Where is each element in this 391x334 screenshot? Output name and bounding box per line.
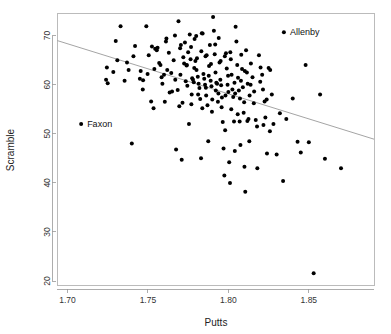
data-point xyxy=(261,123,265,127)
data-point xyxy=(201,32,205,36)
y-tick-label: 60 xyxy=(42,80,52,90)
data-point xyxy=(206,139,210,143)
data-point xyxy=(296,140,300,144)
data-point xyxy=(225,66,229,70)
data-point xyxy=(207,74,211,78)
point-label-faxon: Faxon xyxy=(87,119,112,129)
data-point xyxy=(184,79,188,83)
data-point xyxy=(213,42,217,46)
data-point xyxy=(106,81,110,85)
data-point xyxy=(249,62,253,66)
data-point xyxy=(223,93,227,97)
data-point xyxy=(162,73,166,77)
data-point xyxy=(228,50,232,54)
data-point xyxy=(223,128,227,132)
data-point xyxy=(214,70,218,74)
data-point xyxy=(174,147,178,151)
data-point xyxy=(275,152,279,156)
data-point xyxy=(252,90,256,94)
data-point xyxy=(231,95,235,99)
x-tick-label: 1.75 xyxy=(140,295,157,305)
data-point xyxy=(238,120,242,124)
data-point xyxy=(226,83,230,87)
data-point xyxy=(186,50,190,54)
data-point xyxy=(236,76,240,80)
data-point xyxy=(228,181,232,185)
data-point xyxy=(248,93,252,97)
data-point xyxy=(235,63,239,67)
data-point xyxy=(229,107,233,111)
data-point xyxy=(114,39,118,43)
data-point xyxy=(173,78,177,82)
data-point xyxy=(196,75,200,79)
data-point xyxy=(192,80,196,84)
data-point xyxy=(242,111,246,115)
data-point xyxy=(312,271,316,275)
data-point xyxy=(227,160,231,164)
data-point xyxy=(238,143,242,147)
data-point xyxy=(180,158,184,162)
data-point xyxy=(304,63,308,67)
data-point xyxy=(156,46,160,50)
plot-canvas: 1.701.751.801.85 203040506070 FaxonAllen… xyxy=(0,0,391,334)
data-point xyxy=(164,39,168,43)
data-point xyxy=(131,54,135,58)
data-point xyxy=(200,106,204,110)
data-point xyxy=(197,82,201,86)
data-point xyxy=(242,100,246,104)
data-point xyxy=(177,104,181,108)
data-point xyxy=(278,111,282,115)
data-point xyxy=(271,122,275,126)
data-point xyxy=(104,78,108,82)
data-point xyxy=(270,93,274,97)
data-point xyxy=(170,90,174,94)
data-point xyxy=(220,95,224,99)
data-point xyxy=(169,71,173,75)
data-point xyxy=(243,69,247,73)
data-point xyxy=(194,34,198,38)
data-point xyxy=(205,103,209,107)
data-point xyxy=(178,73,182,77)
data-point xyxy=(268,68,272,72)
data-point xyxy=(245,119,249,123)
data-point xyxy=(179,43,183,47)
data-point xyxy=(210,110,214,114)
data-point xyxy=(232,120,236,124)
data-point xyxy=(257,53,261,57)
data-point xyxy=(183,40,187,44)
data-point xyxy=(260,73,264,77)
data-point xyxy=(160,82,164,86)
y-tick-label: 50 xyxy=(42,129,52,139)
data-point xyxy=(167,51,171,55)
data-point xyxy=(211,15,215,19)
data-point xyxy=(149,99,153,103)
data-point xyxy=(244,48,248,52)
data-point xyxy=(204,86,208,90)
data-point xyxy=(209,84,213,88)
y-axis: 203040506070 xyxy=(42,31,56,286)
data-point xyxy=(299,150,303,154)
data-point xyxy=(230,88,234,92)
data-point xyxy=(268,129,272,133)
data-point xyxy=(247,139,251,143)
data-point xyxy=(226,74,230,78)
data-point xyxy=(318,93,322,97)
data-point xyxy=(217,36,221,40)
data-point xyxy=(204,54,208,58)
data-point xyxy=(339,166,343,170)
data-point xyxy=(230,73,234,77)
data-point xyxy=(189,45,193,49)
x-axis-title: Putts xyxy=(205,317,228,328)
data-point xyxy=(265,151,269,155)
x-tick-label: 1.80 xyxy=(220,295,237,305)
data-point xyxy=(239,53,243,57)
data-point xyxy=(219,59,223,63)
data-point xyxy=(195,68,199,72)
data-point xyxy=(111,70,115,74)
data-point xyxy=(249,83,253,87)
data-point xyxy=(178,46,182,50)
data-point xyxy=(234,39,238,43)
data-point xyxy=(281,179,285,183)
data-point xyxy=(150,44,154,48)
data-point xyxy=(241,85,245,89)
